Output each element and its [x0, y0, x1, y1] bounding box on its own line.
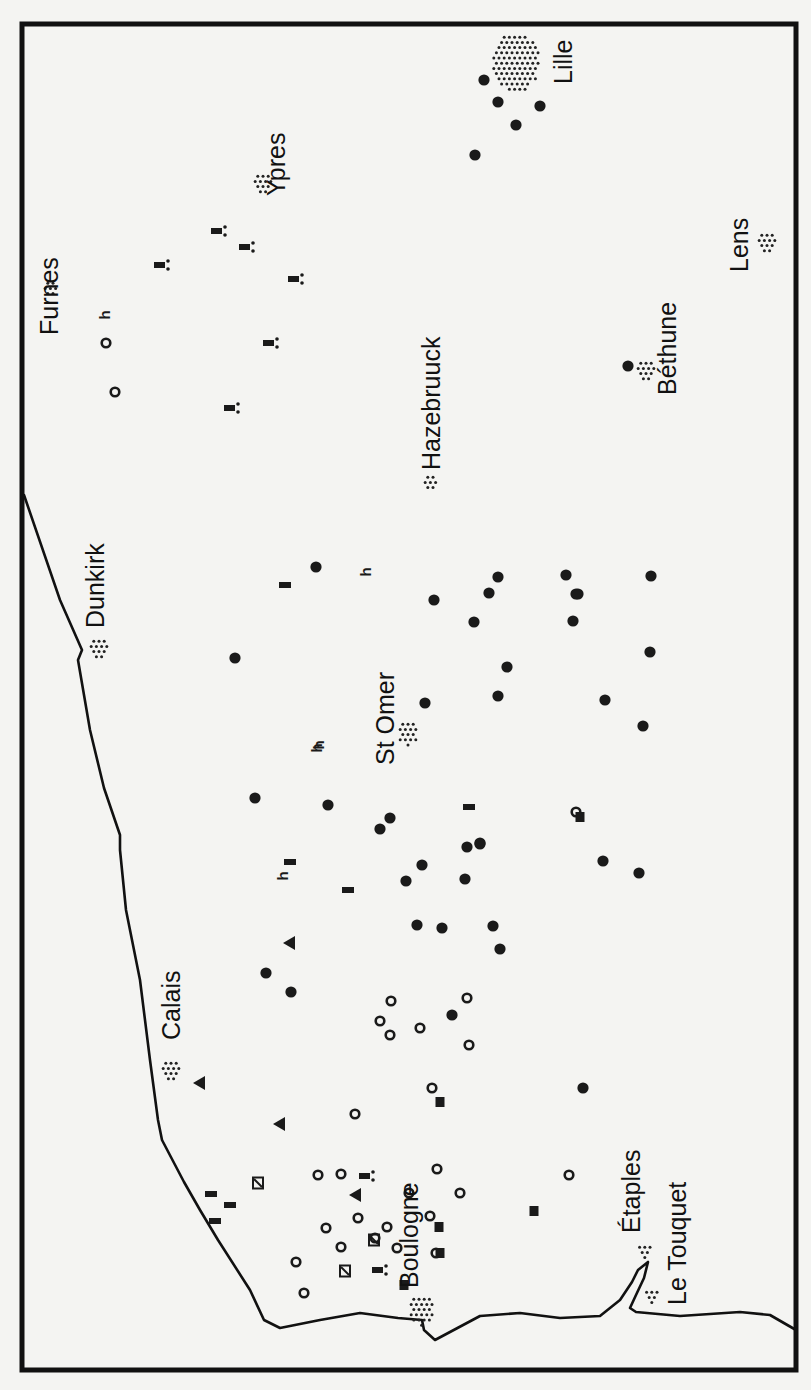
filled-dot-icon	[534, 100, 545, 111]
town-label: Boulogne	[395, 1182, 423, 1288]
filled-dot-icon	[570, 588, 581, 599]
filled-dot-icon	[436, 922, 447, 933]
filled-dot-icon	[633, 867, 644, 878]
town-label: Furnes	[35, 257, 63, 335]
square-icon	[436, 1097, 445, 1107]
filled-dot-icon	[469, 149, 480, 160]
h-glyph-icon: h	[357, 567, 374, 576]
filled-dot-icon	[428, 594, 439, 605]
filled-dot-icon	[478, 74, 489, 85]
bar-icon	[284, 859, 296, 865]
map-background	[0, 0, 811, 1390]
filled-dot-icon	[492, 690, 503, 701]
square-icon	[576, 812, 585, 822]
town-label: Hazebruuck	[417, 336, 445, 470]
filled-dot-icon	[229, 652, 240, 663]
filled-dot-icon	[577, 1082, 588, 1093]
filled-dot-icon	[560, 569, 571, 580]
filled-dot-icon	[510, 119, 521, 130]
filled-dot-icon	[644, 646, 655, 657]
town-label: Lille	[549, 40, 577, 84]
filled-dot-icon	[416, 859, 427, 870]
filled-dot-icon	[285, 986, 296, 997]
h-glyph-icon: h	[96, 310, 113, 319]
filled-dot-icon	[492, 96, 503, 107]
bar-icon	[463, 804, 475, 810]
filled-dot-icon	[411, 919, 422, 930]
town-label: St Omer	[371, 672, 399, 765]
town-label: Dunkirk	[81, 543, 109, 628]
h-glyph-icon: h	[310, 740, 327, 749]
filled-dot-icon	[310, 561, 321, 572]
square-icon	[435, 1222, 444, 1232]
town-label: Lens	[725, 218, 753, 272]
square-icon	[530, 1206, 539, 1216]
filled-dot-icon	[622, 360, 633, 371]
filled-dot-icon	[249, 792, 260, 803]
filled-dot-icon	[487, 920, 498, 931]
town-label: Étaples	[617, 1150, 645, 1233]
filled-dot-icon	[459, 873, 470, 884]
filled-dot-icon	[567, 615, 578, 626]
town-label: Le Touquet	[663, 1182, 691, 1305]
square-icon	[436, 1248, 445, 1258]
filled-dot-icon	[645, 570, 656, 581]
filled-dot-icon	[400, 875, 411, 886]
filled-dot-icon	[374, 823, 385, 834]
town-label: Calais	[157, 971, 185, 1040]
bar-icon	[342, 887, 354, 893]
filled-dot-icon	[260, 967, 271, 978]
filled-dot-icon	[494, 943, 505, 954]
filled-dot-icon	[419, 697, 430, 708]
filled-dot-icon	[461, 841, 472, 852]
filled-dot-icon	[446, 1009, 457, 1020]
filled-dot-icon	[597, 855, 608, 866]
h-glyph-icon: h	[274, 871, 291, 880]
filled-dot-icon	[637, 720, 648, 731]
filled-dot-icon	[599, 694, 610, 705]
town-label: Ypres	[262, 133, 290, 196]
bar-icon	[205, 1191, 217, 1197]
map: hhhhh LilleYpresLensFurnesBéthuneHazebru…	[0, 0, 811, 1390]
filled-dot-icon	[483, 587, 494, 598]
filled-dot-icon	[501, 661, 512, 672]
filled-dot-icon	[322, 799, 333, 810]
filled-dot-icon	[384, 812, 395, 823]
bar-icon	[209, 1218, 221, 1224]
filled-dot-icon	[468, 616, 479, 627]
filled-dot-icon	[474, 838, 485, 849]
filled-dot-icon	[492, 571, 503, 582]
town-label: Béthune	[653, 302, 681, 395]
bar-icon	[279, 582, 291, 588]
bar-icon	[224, 1202, 236, 1208]
